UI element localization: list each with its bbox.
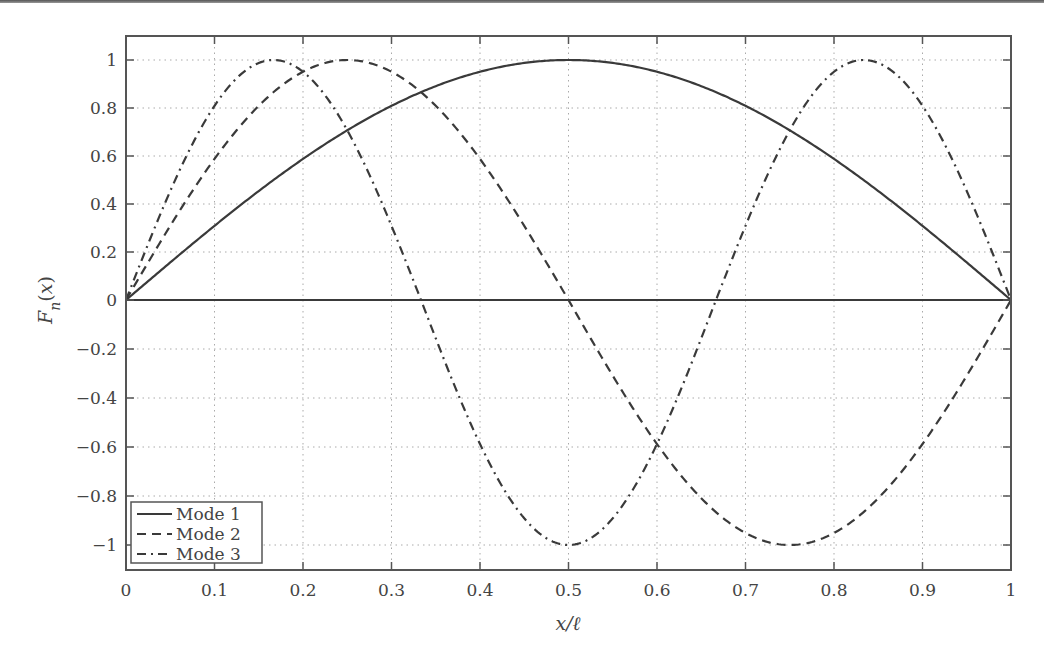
y-tick-label: 0 [106,290,117,310]
x-tick-label: 0.3 [378,580,405,600]
legend-label: Mode 2 [176,524,241,544]
series-mode-2 [126,60,1011,545]
y-tick-label: 0.2 [90,242,117,262]
y-tick-label: −0.2 [76,339,117,359]
y-tick-label: −0.4 [76,388,117,408]
y-tick-label: −0.6 [76,437,117,457]
x-tick-label: 0.5 [555,580,582,600]
x-axis-label: x/ℓ [555,612,580,634]
x-tick-label: 0.8 [820,580,847,600]
x-tick-label: 0 [121,580,132,600]
legend-label: Mode 1 [176,504,241,524]
series-mode-3 [126,60,1011,545]
legend-label: Mode 3 [176,544,241,564]
y-tick-labels: 10.80.60.40.20−0.2−0.4−0.6−0.8−1 [76,50,117,555]
x-tick-label: 0.6 [643,580,670,600]
x-tick-label: 0.9 [909,580,936,600]
y-tick-label: 1 [106,50,117,70]
y-tick-label: 0.4 [90,194,117,214]
y-tick-label: −0.8 [76,486,117,506]
y-tick-label: 0.8 [90,98,117,118]
x-tick-label: 0.4 [466,580,493,600]
plot-frame [126,36,1011,570]
y-axis-label: Fn(x) [34,276,63,325]
grid-lines [126,36,1011,570]
legend: Mode 1Mode 2Mode 3 [131,502,262,564]
x-tick-label: 0.7 [732,580,759,600]
curves [126,60,1011,545]
y-tick-label: −1 [92,535,117,555]
x-tick-label: 1 [1006,580,1017,600]
x-tick-label: 0.2 [289,580,316,600]
axis-ticks [126,36,1011,570]
mode-shapes-chart: 00.10.20.30.40.50.60.70.80.91 10.80.60.4… [0,0,1044,664]
y-tick-label: 0.6 [90,146,117,166]
x-tick-label: 0.1 [201,580,228,600]
x-tick-labels: 00.10.20.30.40.50.60.70.80.91 [121,580,1017,600]
